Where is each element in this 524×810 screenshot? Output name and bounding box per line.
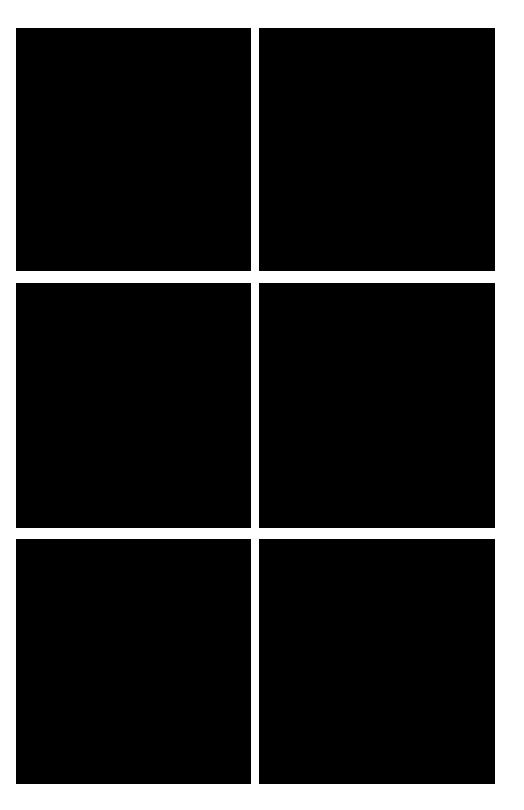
panel-row2-left	[16, 283, 251, 528]
panel-row1-right	[259, 28, 495, 271]
panel-row3-left	[16, 539, 251, 784]
panel-row2-right	[259, 283, 495, 528]
panel-grid-page	[0, 0, 524, 810]
panel-row1-left	[16, 28, 251, 271]
panel-row3-right	[259, 539, 495, 784]
